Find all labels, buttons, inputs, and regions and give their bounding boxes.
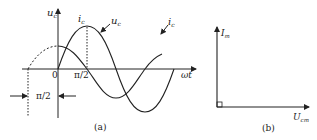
phase-diagram: uc ic uc ic 0 π/2 ωt π/2 (a) Im Ucm (b) xyxy=(0,0,317,140)
voltage-curve-label: uc xyxy=(111,15,121,27)
current-phasor-label: Im xyxy=(220,28,230,39)
voltage-label-pointer xyxy=(101,24,110,32)
voltage-phasor-label: Ucm xyxy=(293,112,309,123)
current-curve-label: ic xyxy=(168,16,175,28)
waveform-figure: uc ic uc ic 0 π/2 ωt π/2 (a) xyxy=(10,7,196,132)
current-label-pointer xyxy=(161,25,168,34)
current-curve-dashed xyxy=(28,46,58,69)
origin-label: 0 xyxy=(52,70,58,80)
y-axis-label: uc xyxy=(47,7,57,19)
phase-difference-label: π/2 xyxy=(36,91,51,101)
peak-label: ic xyxy=(78,13,85,25)
phasor-figure: Im Ucm (b) xyxy=(217,27,309,133)
x-axis-label: ωt xyxy=(181,70,192,80)
tick-label-pi-half: π/2 xyxy=(74,70,89,80)
right-angle-marker xyxy=(217,102,222,107)
figure-b-caption: (b) xyxy=(262,123,275,133)
figure-a-caption: (a) xyxy=(94,122,106,132)
